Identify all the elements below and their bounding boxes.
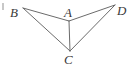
- geometry-figure: B A D C: [0, 0, 134, 68]
- edge-AC: [69, 21, 70, 51]
- vertex-label-c: C: [64, 53, 73, 66]
- edge-CD: [70, 5, 115, 51]
- edge-AD: [69, 5, 115, 21]
- scan-artifact-mark: [2, 3, 4, 10]
- vertex-label-d: D: [117, 4, 126, 17]
- vertex-label-a: A: [64, 6, 72, 19]
- vertex-label-b: B: [10, 6, 18, 19]
